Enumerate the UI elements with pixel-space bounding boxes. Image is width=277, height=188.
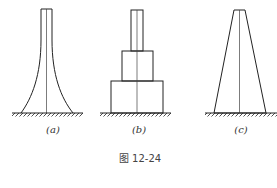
- panel-a-label: (a): [46, 124, 60, 135]
- ground-support-a: [12, 113, 83, 117]
- ground-support-b: [100, 113, 171, 117]
- panel-c-column: [205, 10, 277, 117]
- figure-12-24: (a) (b) (c) 图 12-24: [0, 0, 277, 188]
- panel-b-label: (b): [132, 124, 146, 135]
- panel-a-column: [12, 9, 83, 117]
- panel-b-column: [100, 10, 171, 117]
- panel-c-label: (c): [234, 124, 247, 135]
- ground-support-c: [205, 113, 277, 117]
- figure-caption: 图 12-24: [119, 150, 161, 165]
